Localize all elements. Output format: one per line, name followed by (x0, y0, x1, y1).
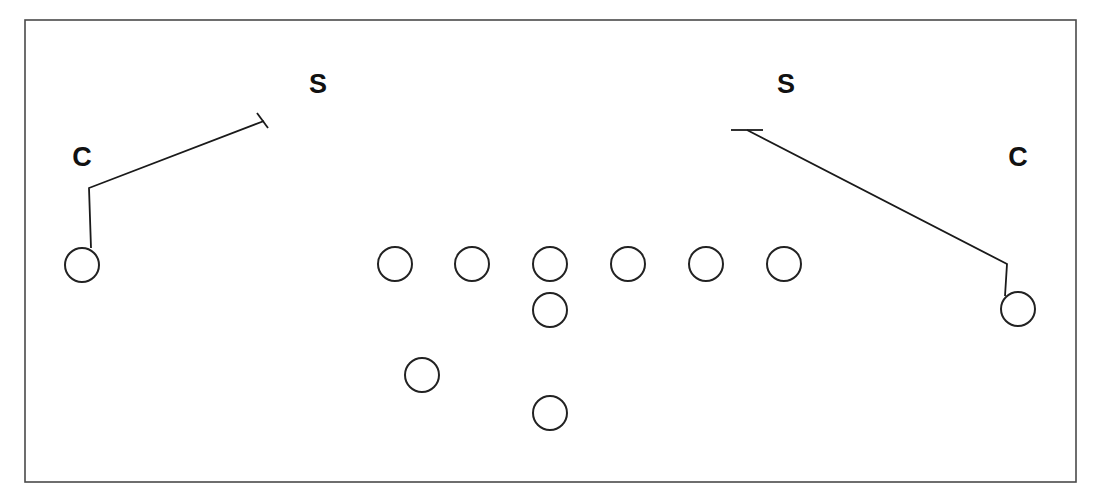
player-ol-4 (611, 247, 645, 281)
player-center (533, 247, 567, 281)
player-rb (533, 396, 567, 430)
player-ol-1 (378, 247, 412, 281)
defender-corner-left: C (72, 142, 92, 172)
player-te (767, 247, 801, 281)
play-diagram-canvas: SSCC (0, 0, 1098, 499)
player-ol-2 (455, 247, 489, 281)
player-fb (405, 358, 439, 392)
defender-safety-right: S (777, 69, 795, 99)
player-qb (533, 293, 567, 327)
player-ol-5 (689, 247, 723, 281)
player-wr-right (1001, 292, 1035, 326)
defender-corner-right: C (1008, 142, 1028, 172)
player-wr-left (65, 248, 99, 282)
defender-safety-left: S (309, 69, 327, 99)
